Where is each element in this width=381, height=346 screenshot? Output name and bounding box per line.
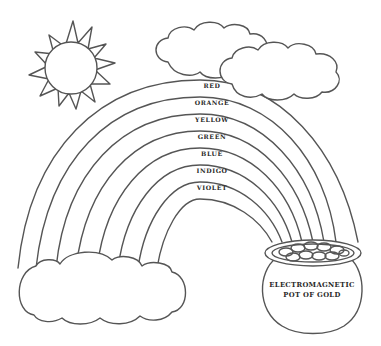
band-label-green: GREEN (198, 133, 227, 140)
band-label-violet: VIOLET (196, 184, 227, 191)
cloud-top-front (220, 42, 339, 100)
pot-label-line2: POT OF GOLD (283, 291, 340, 299)
band-label-blue: BLUE (201, 150, 223, 157)
band-label-red: RED (203, 82, 220, 89)
cloud-bottom-left (19, 252, 185, 324)
band-labels: RED ORANGE YELLOW GREEN BLUE INDIGO VIOL… (194, 82, 229, 191)
pot-label-line1: ELECTROMAGNETIC (269, 281, 355, 289)
band-label-orange: ORANGE (195, 99, 230, 106)
band-label-indigo: INDIGO (196, 167, 227, 174)
sun-icon (29, 21, 115, 109)
band-label-yellow: YELLOW (194, 116, 229, 123)
rainbow-coloring-page: RED ORANGE YELLOW GREEN BLUE INDIGO VIOL… (0, 0, 381, 346)
